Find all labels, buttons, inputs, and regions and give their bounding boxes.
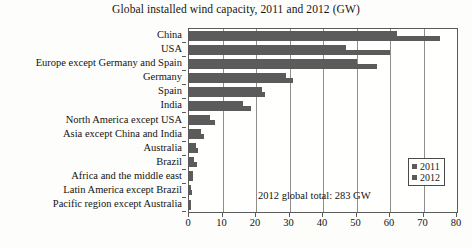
category-tick <box>182 155 186 156</box>
category-label: North America except USA <box>66 114 182 125</box>
bar-group <box>189 73 457 85</box>
category-tick <box>182 70 186 71</box>
legend-label: 2011 <box>420 161 440 172</box>
category-tick <box>182 211 186 212</box>
legend-item-2011[interactable]: 2011 <box>412 161 440 172</box>
category-tick <box>182 169 186 170</box>
category-tick <box>182 56 186 57</box>
x-tick-label: 10 <box>216 217 227 228</box>
legend-swatch-icon <box>412 175 417 180</box>
category-tick <box>182 183 186 184</box>
bar-group <box>189 129 457 141</box>
bar-2012 <box>189 78 293 83</box>
category-label: Spain <box>158 85 182 96</box>
x-axis: 01020304050607080 <box>188 213 458 235</box>
bar-2012 <box>189 120 215 125</box>
x-tick-label: 30 <box>283 217 294 228</box>
category-label: Latin America except Brazil <box>63 184 182 195</box>
bar-2012 <box>189 176 193 181</box>
category-label: Australia <box>144 142 183 153</box>
global-total-annotation: 2012 global total: 283 GW <box>258 190 371 201</box>
category-label: Asia except China and India <box>63 128 182 139</box>
bar-group <box>189 31 457 43</box>
wind-capacity-figure: Global installed wind capacity, 2011 and… <box>0 0 472 248</box>
bar-group <box>189 101 457 113</box>
legend-item-2012[interactable]: 2012 <box>412 172 440 183</box>
x-tick-label: 80 <box>451 217 462 228</box>
bar-2012 <box>189 92 265 97</box>
chart-legend: 20112012 <box>408 158 445 186</box>
bar-2012 <box>189 190 192 195</box>
x-tick-label: 20 <box>250 217 261 228</box>
category-tick <box>182 197 186 198</box>
bar-group <box>189 45 457 57</box>
legend-label: 2012 <box>420 172 440 183</box>
category-tick <box>182 127 186 128</box>
bar-2012 <box>189 36 440 41</box>
category-label: India <box>160 99 182 110</box>
category-label: Pacific region except Australia <box>53 198 182 209</box>
category-label: China <box>157 29 182 40</box>
bar-group <box>189 200 457 212</box>
category-label: USA <box>161 43 182 54</box>
x-tick-label: 60 <box>384 217 395 228</box>
x-tick-label: 50 <box>350 217 361 228</box>
x-tick-label: 0 <box>185 217 190 228</box>
category-label: Africa and the middle east <box>71 170 182 181</box>
bar-group <box>189 143 457 155</box>
category-axis-labels: ChinaUSAEurope except Germany and SpainG… <box>0 28 186 213</box>
bar-2012 <box>189 148 198 153</box>
x-tick-label: 70 <box>417 217 428 228</box>
bar-group <box>189 59 457 71</box>
legend-swatch-icon <box>412 164 417 169</box>
category-tick <box>182 42 186 43</box>
category-tick <box>182 141 186 142</box>
chart-title: Global installed wind capacity, 2011 and… <box>0 3 472 15</box>
category-tick <box>182 112 186 113</box>
bar-2012 <box>189 64 377 69</box>
x-tick-label: 40 <box>317 217 328 228</box>
category-label: Europe except Germany and Spain <box>36 57 182 68</box>
category-tick <box>182 98 186 99</box>
bar-2012 <box>189 106 251 111</box>
bar-2012 <box>189 50 390 55</box>
bar-group <box>189 115 457 127</box>
bar-group <box>189 87 457 99</box>
category-tick <box>182 84 186 85</box>
category-label: Germany <box>143 71 182 82</box>
category-label: Brazil <box>156 156 182 167</box>
bar-2012 <box>189 162 197 167</box>
bar-2012 <box>189 205 191 210</box>
bar-2012 <box>189 134 204 139</box>
